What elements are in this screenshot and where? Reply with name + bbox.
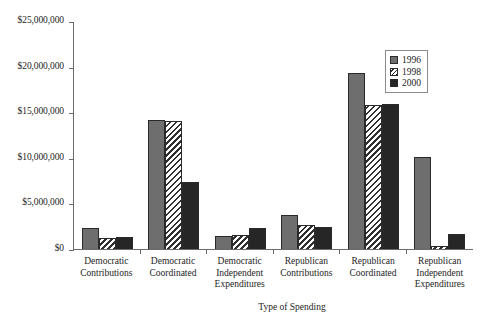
y-axis-tick-label: $20,000,000 [18,61,64,71]
bar-1998 [232,235,249,249]
x-axis-tick-label: DemocraticIndependentExpenditures [206,256,273,291]
bar-2000 [116,237,133,249]
bar-1996 [414,157,431,249]
x-axis-tick-mark [206,249,207,254]
x-axis-tick-label-line: Independent [407,268,472,280]
legend-item[interactable]: 1996 [390,55,421,66]
bar-1998 [431,246,448,249]
bar-group [274,22,341,249]
y-axis-tick-label: $5,000,000 [22,197,64,207]
legend-swatch-icon [390,68,398,76]
x-axis-tick-labels: DemocraticContributionsDemocraticCoordin… [73,256,473,291]
x-axis-tick-label-line: Expenditures [207,279,272,291]
x-axis-tick-label-line: Contributions [74,268,139,280]
bar-1998 [298,225,315,249]
x-axis-tick-label: RepublicanCoordinated [340,256,407,291]
x-axis-tick-mark [273,249,274,254]
x-axis-tick-label-line: Democratic [74,256,139,268]
y-axis-tick-label: $15,000,000 [18,106,64,116]
x-axis-tick-label-line: Coordinated [341,268,406,280]
x-axis-tick-label-line: Republican [341,256,406,268]
bar-2000 [182,182,199,249]
x-axis-tick-label-line: Republican [407,256,472,268]
bar-2000 [249,228,266,249]
bar-1998 [99,238,116,249]
bar-1998 [165,121,182,249]
x-axis-tick-label-line: Coordinated [141,268,206,280]
bar-group-bars [141,22,208,249]
y-axis-tick-label: $10,000,000 [18,152,64,162]
legend-item-label: 1996 [402,55,421,65]
bar-1996 [148,120,165,249]
bar-1996 [281,215,298,249]
bar-2000 [448,234,465,249]
x-axis-tick-mark [140,249,141,254]
bar-1996 [215,236,232,249]
chart-legend: 199619982000 [385,50,428,93]
bar-chart: $0$5,000,000$10,000,000$15,000,000$20,00… [0,0,480,324]
bar-1996 [348,73,365,249]
y-axis-tick-label: $25,000,000 [18,15,64,25]
x-axis-tick-label: RepublicanContributions [273,256,340,291]
bar-group-bars [207,22,274,249]
legend-swatch-icon [390,56,398,64]
bar-group-bars [274,22,341,249]
x-axis-tick-label-line: Democratic [207,256,272,268]
bar-group-bars [74,22,141,249]
x-axis-title: Type of Spending [73,302,473,312]
x-axis-tick-label-line: Democratic [141,256,206,268]
y-axis-tick-label: $0 [55,243,64,253]
bar-2000 [315,227,332,249]
x-axis-tick-mark [406,249,407,254]
bar-group [141,22,208,249]
x-axis-tick-label-line: Republican [274,256,339,268]
bar-1996 [82,228,99,249]
legend-item[interactable]: 1998 [390,66,421,77]
bar-1998 [365,105,382,249]
legend-item-label: 1998 [402,67,421,77]
bar-group [207,22,274,249]
x-axis-tick-label: RepublicanIndependentExpenditures [406,256,473,291]
bar-group [74,22,141,249]
x-axis-tick-label-line: Contributions [274,268,339,280]
legend-swatch-icon [390,79,398,87]
y-axis-tick-mark [69,250,74,251]
x-axis-tick-label-line: Expenditures [407,279,472,291]
x-axis-tick-label: DemocraticContributions [73,256,140,291]
x-axis-tick-label: DemocraticCoordinated [140,256,207,291]
x-axis-tick-label-line: Independent [207,268,272,280]
legend-item-label: 2000 [402,78,421,88]
legend-item[interactable]: 2000 [390,78,421,89]
x-axis-tick-mark [339,249,340,254]
bar-2000 [382,104,399,249]
